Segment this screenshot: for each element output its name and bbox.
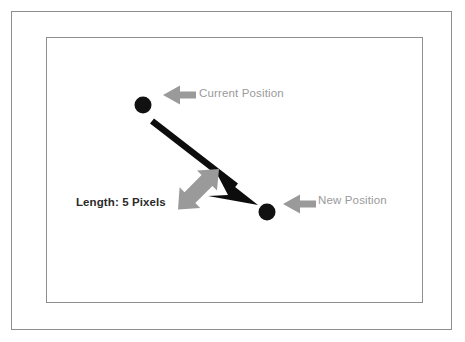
new-position-callout-arrow (283, 195, 316, 214)
length-label: Length: 5 Pixels (76, 197, 166, 209)
new-position-point (259, 204, 276, 221)
current-position-point (135, 97, 152, 114)
new-position-label: New Position (318, 195, 387, 207)
length-callout-arrow (178, 169, 219, 210)
movement-vector-shaft (152, 121, 236, 186)
figure-root: Current Position New Position Length: 5 … (0, 0, 465, 342)
diagram-canvas (0, 0, 465, 342)
current-position-callout-arrow (163, 86, 196, 105)
current-position-label: Current Position (199, 88, 284, 100)
